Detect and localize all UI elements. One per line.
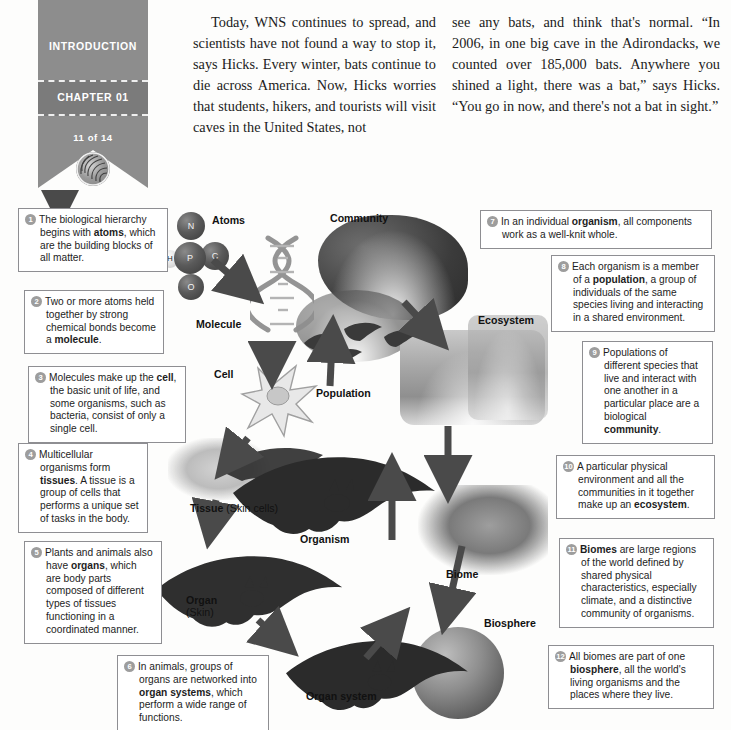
biological-hierarchy-figure: N C H P O (0, 190, 731, 730)
article-column-right: see any bats, and think that's normal. “… (452, 12, 720, 117)
callout-text-2: Two or more atoms held together by stron… (45, 296, 156, 345)
chapter-banner: INTRODUCTION CHAPTER 01 11 of 14 (38, 0, 148, 188)
textbook-page: INTRODUCTION CHAPTER 01 11 of 14 Today, … (0, 0, 731, 730)
callout-text-10: A particular physical environment and al… (577, 461, 694, 510)
callout-4[interactable]: 4Multicellular organisms form tissues. A… (18, 443, 148, 533)
callout-text-12: All biomes are part of one biosphere, al… (569, 651, 686, 700)
stage-label-biosphere: Biosphere (484, 617, 536, 629)
callout-text-4: Multicellular organisms form tissues. A … (39, 449, 139, 524)
article-paragraph-left: Today, WNS continues to spread, and scie… (193, 12, 436, 138)
stage-label-tissue-text: Tissue (190, 502, 223, 514)
spiral-emblem-icon (76, 152, 110, 186)
callout-badge-7: 7 (487, 216, 498, 227)
stage-label-community: Community (330, 212, 388, 224)
stage-label-organ-system: Organ system (306, 690, 377, 702)
stage-label-tissue: Tissue (Skin cells) (190, 502, 278, 514)
callout-12[interactable]: 12All biomes are part of one biosphere, … (548, 645, 714, 709)
stage-label-organ: Organ (Skin) (186, 594, 217, 618)
stage-label-organism: Organism (300, 533, 349, 545)
callout-text-6: In animals, groups of organs are network… (138, 661, 257, 723)
stage-label-cell: Cell (214, 368, 233, 380)
callout-badge-4: 4 (25, 449, 36, 460)
article-paragraph-right: see any bats, and think that's normal. “… (452, 12, 720, 117)
stage-label-organ-text: Organ (186, 594, 217, 606)
callout-10[interactable]: 10A particular physical environment and … (556, 455, 715, 519)
stage-label-biome: Biome (446, 568, 478, 580)
callout-text-1: The biological hierarchy begins with ato… (39, 214, 156, 263)
callout-1[interactable]: 1The biological hierarchy begins with at… (18, 208, 168, 272)
banner-body (38, 0, 148, 150)
callout-badge-12: 12 (555, 651, 566, 662)
callout-text-5: Plants and animals also have organs, whi… (45, 547, 153, 635)
callout-6[interactable]: 6In animals, groups of organs are networ… (117, 655, 269, 730)
callout-text-8: Each organism is a member of a populatio… (572, 261, 703, 323)
callout-text-7: In an individual organism, all component… (501, 216, 692, 240)
callout-badge-3: 3 (35, 372, 46, 383)
callout-8[interactable]: 8Each organism is a member of a populati… (551, 255, 715, 332)
stage-label-population: Population (316, 387, 371, 399)
stage-label-atoms: Atoms (212, 214, 245, 226)
chapter-label: CHAPTER 01 (38, 91, 148, 103)
callout-7[interactable]: 7In an individual organism, all componen… (480, 210, 712, 249)
stage-label-molecule: Molecule (196, 318, 241, 330)
callout-11[interactable]: 11Biomes are large regions of the world … (559, 538, 714, 628)
callout-badge-6: 6 (124, 661, 135, 672)
callout-badge-11: 11 (566, 544, 577, 555)
callout-badge-1: 1 (25, 214, 36, 225)
callout-badge-10: 10 (563, 461, 574, 472)
callout-2[interactable]: 2Two or more atoms held together by stro… (24, 290, 164, 354)
stage-label-ecosystem: Ecosystem (478, 314, 534, 326)
callout-text-3: Molecules make up the cell, the basic un… (49, 372, 176, 434)
callout-text-9: Populations of different species that li… (603, 347, 699, 435)
callout-5[interactable]: 5Plants and animals also have organs, wh… (24, 541, 162, 644)
callout-badge-9: 9 (589, 347, 600, 358)
page-counter: 11 of 14 (38, 132, 148, 143)
callout-9[interactable]: 9Populations of different species that l… (582, 341, 713, 444)
callout-badge-8: 8 (558, 261, 569, 272)
stage-label-organ-sub: (Skin) (186, 606, 217, 618)
callout-3[interactable]: 3Molecules make up the cell, the basic u… (28, 366, 186, 443)
callout-text-11: Biomes are large regions of the world de… (580, 544, 697, 619)
callout-badge-2: 2 (31, 296, 42, 307)
article-column-left: Today, WNS continues to spread, and scie… (193, 12, 436, 138)
section-label: INTRODUCTION (38, 40, 148, 52)
callout-badge-5: 5 (31, 547, 42, 558)
stage-label-tissue-sub: (Skin cells) (223, 502, 278, 514)
